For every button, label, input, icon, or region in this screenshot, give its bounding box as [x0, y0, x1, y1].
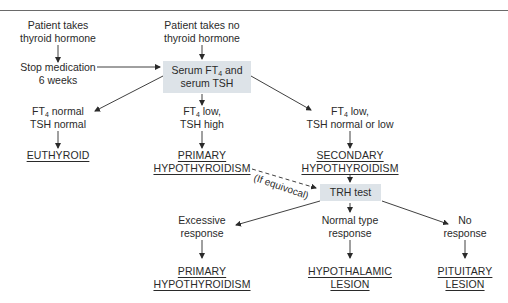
outcome-primary-hypothyroidism-1: PRIMARY HYPOTHYROIDISM	[153, 149, 250, 175]
node-no-response: No response	[443, 214, 486, 240]
node-ft4-low-tsh-high: FT4 low, TSH high	[180, 105, 224, 131]
node-ft4-low-tsh-normal-or-low: FT4 low, TSH normal or low	[307, 105, 394, 131]
outcome-secondary-hypothyroidism: SECONDARY HYPOTHYROIDISM	[301, 149, 398, 175]
outcome-hypothalamic-lesion: HYPOTHALAMIC LESION	[308, 265, 392, 291]
node-ft4-normal-tsh-normal: FT4 normal TSH normal	[30, 105, 86, 131]
arrow-serum-to-ft4lowtsh	[251, 76, 311, 110]
outcome-euthyroid: EUTHYROID	[27, 149, 90, 162]
node-excessive-response: Excessive response	[178, 214, 225, 240]
box-serum-ft4-tsh: Serum FT4 and serum TSH	[163, 61, 251, 93]
arrow-trh-to-excessive	[236, 201, 320, 225]
node-patient-takes-hormone: Patient takes thyroid hormone	[20, 19, 96, 45]
box-trh-test: TRH test	[320, 184, 381, 201]
node-normal-type-response: Normal type response	[322, 214, 379, 240]
arrow-trh-to-noresponse	[382, 201, 448, 224]
outcome-primary-hypothyroidism-2: PRIMARY HYPOTHYROIDISM	[153, 265, 250, 291]
node-patient-takes-no-hormone: Patient takes no thyroid hormone	[164, 19, 240, 45]
arrow-serum-to-ft4normal	[95, 76, 163, 111]
node-stop-medication: Stop medication 6 weeks	[20, 61, 95, 87]
outcome-pituitary-lesion: PITUITARY LESION	[438, 265, 493, 291]
